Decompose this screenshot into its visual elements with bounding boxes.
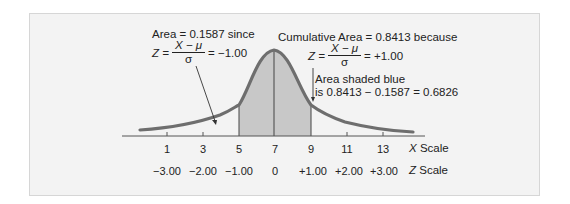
- x-tick: 13: [377, 143, 389, 155]
- z-tick: +3.00: [370, 165, 398, 177]
- x-tick: 7: [272, 143, 278, 155]
- left-z-formula: Z = X − μ σ = −1.00: [152, 39, 247, 66]
- z-tick: 0: [272, 165, 278, 177]
- z-tick: −2.00: [189, 165, 217, 177]
- z-scale-var: Z: [409, 164, 416, 176]
- shaded-annotation-line2: is 0.8413 − 0.1587 = 0.6826: [315, 86, 458, 98]
- left-fraction: X − μ σ: [172, 39, 205, 66]
- z-scale-word: Scale: [419, 164, 448, 176]
- shaded-area: [239, 50, 311, 136]
- z-tick: +1.00: [299, 165, 327, 177]
- x-tick: 11: [341, 143, 352, 155]
- x-scale-label: X Scale: [409, 142, 449, 154]
- x-tick: 9: [308, 143, 314, 155]
- z-scale-label: Z Scale: [409, 164, 448, 176]
- right-z-formula: Z = X − μ σ = +1.00: [308, 42, 403, 69]
- right-numerator: X − μ: [328, 42, 361, 56]
- right-z-label: Z =: [308, 50, 325, 62]
- x-tick: 3: [200, 143, 206, 155]
- z-tick: −3.00: [153, 165, 181, 177]
- left-denominator: σ: [185, 53, 192, 66]
- right-denominator: σ: [341, 56, 348, 69]
- x-scale-word: Scale: [420, 142, 449, 154]
- x-tick: 1: [164, 143, 170, 155]
- x-scale-var: X: [409, 142, 417, 154]
- left-z-label: Z =: [152, 47, 169, 59]
- right-fraction: X − μ σ: [328, 42, 361, 69]
- left-numerator: X − μ: [172, 39, 205, 53]
- z-tick: −1.00: [225, 165, 253, 177]
- shaded-annotation-line1: Area shaded blue: [315, 73, 405, 85]
- left-result: = −1.00: [208, 47, 247, 59]
- right-result: = +1.00: [364, 50, 403, 62]
- left-pointer-line: [196, 66, 215, 121]
- left-pointer-arrowhead: [212, 120, 217, 125]
- x-tick: 5: [236, 143, 242, 155]
- z-tick: +2.00: [335, 165, 363, 177]
